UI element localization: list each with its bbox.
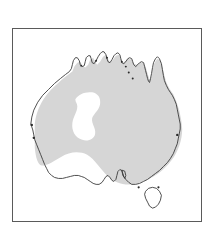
coastal-headland-dot <box>31 124 33 126</box>
coastal-headland-dot <box>128 72 130 74</box>
map-frame <box>12 28 202 222</box>
australia-map-svg <box>13 29 201 221</box>
coastal-headland-dot <box>125 66 127 68</box>
coastal-headland-dot <box>80 65 82 67</box>
coastal-headland-dot <box>176 134 178 136</box>
coastal-headland-dot <box>121 61 123 63</box>
distribution-map-figure <box>0 0 211 231</box>
coastal-headland-dot <box>95 60 97 62</box>
offshore-marker-dot <box>157 186 159 188</box>
coastal-headland-dot <box>106 57 108 59</box>
offshore-marker-dot <box>138 186 140 188</box>
coastal-headland-dot <box>33 137 35 139</box>
coastal-headland-dot <box>132 78 134 80</box>
